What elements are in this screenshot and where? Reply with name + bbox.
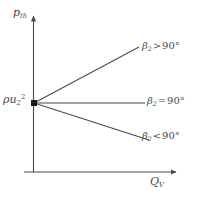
x-axis-label-sub: V bbox=[159, 181, 164, 189]
origin-tick-label-base: ρu bbox=[3, 93, 17, 106]
series-line-beta-gt-90 bbox=[34, 47, 139, 103]
origin-tick-label-sup: 2 bbox=[21, 93, 25, 101]
x-axis-label-base: Q bbox=[150, 175, 159, 188]
y-axis-label-base: p bbox=[13, 6, 20, 19]
angle-value: 90° bbox=[162, 130, 180, 141]
origin-marker bbox=[31, 100, 37, 106]
angle-value: 90° bbox=[162, 40, 180, 51]
series-label-beta-lt-90: β2<90° bbox=[142, 131, 180, 141]
x-axis-label: QV bbox=[150, 176, 164, 187]
comparison-operator: = bbox=[157, 95, 167, 106]
y-axis-label: pth bbox=[13, 7, 27, 18]
comparison-operator: < bbox=[152, 130, 162, 141]
series-label-beta-gt-90: β2>90° bbox=[142, 41, 180, 51]
series-line-beta-lt-90 bbox=[34, 103, 149, 140]
angle-value: 90° bbox=[167, 95, 185, 106]
series-label-beta-eq-90: β2=90° bbox=[147, 96, 185, 106]
comparison-operator: > bbox=[152, 40, 162, 51]
y-axis-label-sub: th bbox=[20, 12, 27, 20]
figure-canvas: pth QV ρu22 β2>90° β2=90° β2<90° bbox=[0, 0, 199, 200]
origin-tick-label: ρu22 bbox=[3, 94, 25, 105]
